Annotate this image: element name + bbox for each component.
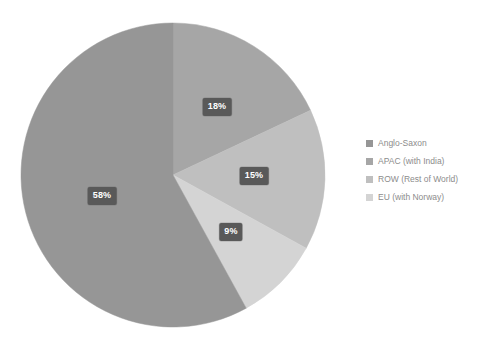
legend-item[interactable]: APAC (with India) — [366, 152, 478, 170]
chart-legend: Anglo-SaxonAPAC (with India)ROW (Rest of… — [366, 134, 478, 206]
legend-swatch-icon — [366, 194, 373, 201]
legend-item-label: ROW (Rest of World) — [378, 175, 458, 184]
legend-swatch-icon — [366, 140, 373, 147]
legend-item-label: Anglo-Saxon — [378, 139, 427, 148]
legend-item[interactable]: ROW (Rest of World) — [366, 170, 478, 188]
pie-data-label: 15% — [240, 167, 269, 185]
pie-plot-area: 18%15%9%58% — [0, 0, 350, 351]
pie-slice-group — [21, 23, 325, 327]
legend-swatch-icon — [366, 158, 373, 165]
pie-data-label: 9% — [219, 223, 242, 241]
legend-swatch-icon — [366, 176, 373, 183]
legend-item-label: APAC (with India) — [378, 157, 444, 166]
pie-data-label: 58% — [88, 187, 117, 205]
legend-item[interactable]: EU (with Norway) — [366, 188, 478, 206]
legend-item[interactable]: Anglo-Saxon — [366, 134, 478, 152]
pie-chart: 18%15%9%58% Anglo-SaxonAPAC (with India)… — [0, 0, 480, 351]
pie-svg — [0, 0, 350, 351]
pie-data-label: 18% — [203, 98, 232, 116]
legend-item-label: EU (with Norway) — [378, 193, 444, 202]
